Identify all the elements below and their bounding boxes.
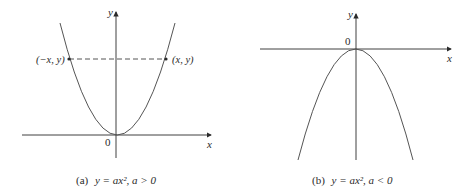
caption-equation: y = ax², a > 0 (94, 174, 156, 186)
caption-b: (b) y = ax², a < 0 (312, 174, 393, 187)
panel-a: y x 0 (−x, y) (x, y) (a) y = ax², a > 0 (22, 6, 212, 187)
x-axis-label: x (206, 138, 212, 150)
origin-label: 0 (345, 35, 351, 47)
point-left (67, 57, 70, 60)
panel-b: y x 0 (b) y = ax², a < 0 (260, 8, 452, 187)
caption-equation: y = ax², a < 0 (331, 174, 393, 186)
y-axis-label: y (107, 6, 113, 18)
point-right-label: (x, y) (172, 54, 194, 66)
parabola-down (298, 49, 413, 160)
parabola-up (60, 23, 175, 135)
point-left-label: (−x, y) (36, 54, 65, 66)
figure: y x 0 (−x, y) (x, y) (a) y = ax², a > 0 … (0, 0, 460, 196)
caption-prefix: (b) (312, 174, 325, 187)
x-axis-label: x (446, 52, 452, 64)
origin-label: 0 (105, 136, 111, 148)
caption-a: (a) y = ax², a > 0 (76, 174, 156, 187)
y-axis-label: y (347, 8, 353, 20)
caption-prefix: (a) (76, 174, 89, 187)
point-right (164, 57, 167, 60)
